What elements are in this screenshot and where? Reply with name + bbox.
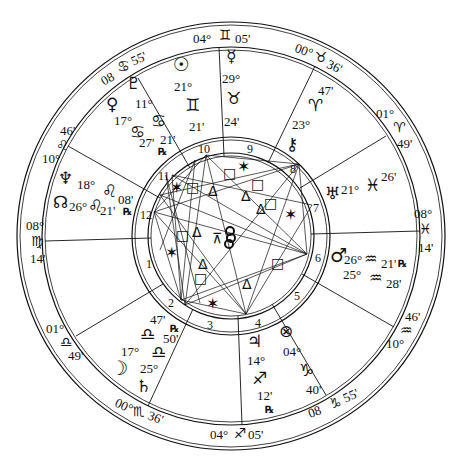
mars-minute: 21'	[381, 257, 396, 270]
house-number-10: 10	[198, 143, 210, 155]
saturn-sign-libra-icon: ♎	[151, 344, 166, 361]
sextile-icon: ✶	[206, 296, 219, 312]
taurus-icon: ♉	[315, 50, 328, 64]
moon-degree: 17°	[121, 345, 139, 358]
leo-icon: ♌	[56, 138, 69, 152]
cusp-2-minute: 49'	[68, 349, 83, 362]
jupiter-retrograde-icon: ℞	[265, 405, 274, 415]
part-of-fortune-icon: ⊗	[279, 323, 293, 340]
sun-degree: 21°	[174, 80, 192, 93]
jupiter-minute: 12'	[257, 389, 272, 402]
south-node-degree: 25°	[343, 268, 361, 281]
house-number-8: 8	[290, 163, 296, 175]
fortune-minute: 40'	[306, 383, 321, 396]
pluto-sign-cancer-icon: ♋	[151, 113, 166, 130]
house-number-9: 9	[247, 143, 253, 155]
neptune-degree: 18°	[77, 178, 95, 191]
neptune-sign-leo-icon: ♌	[102, 183, 117, 200]
north-node-minute: 21'	[100, 204, 115, 217]
moon-minute: 47'	[150, 313, 165, 326]
sextile-icon: ✶	[165, 245, 178, 261]
mars-degree: 26°	[344, 253, 362, 266]
neptune-minute: 08'	[118, 193, 133, 206]
mercury-degree: 29°	[222, 72, 240, 85]
trine-icon: Δ	[192, 225, 202, 239]
mars-retrograde-icon: ℞	[398, 259, 407, 269]
cusp-4-degree: 04°	[210, 428, 228, 441]
uranus-minute: 26'	[381, 170, 396, 183]
saturn-minute: 50'	[163, 332, 178, 345]
house-number-6: 6	[315, 252, 321, 264]
chiron-sign-aries-icon: ♈	[308, 97, 323, 114]
saturn-degree: 25°	[140, 362, 158, 375]
square-icon: □	[271, 256, 284, 270]
south-node-sign-aquarius-icon: ♒	[369, 271, 382, 286]
sun-icon: ☉	[173, 55, 190, 74]
neptune-icon: ♆	[58, 170, 73, 187]
pluto-minute: 21'	[160, 133, 175, 146]
cusp-1-minute: 14'	[30, 252, 45, 265]
house-number-12: 12	[140, 209, 152, 221]
house-number-4: 4	[255, 317, 261, 329]
jupiter-degree: 14°	[247, 354, 265, 367]
uranus-icon: ♅	[325, 185, 340, 202]
libra-icon: ♎	[60, 335, 73, 349]
trine-icon: Δ	[241, 189, 251, 203]
mercury-minute: 24'	[224, 115, 239, 128]
cusp-7-degree: 08°	[414, 207, 432, 220]
chiron-icon: ⚷	[286, 136, 298, 153]
sun-sign-gemini-icon: ♊	[185, 97, 200, 114]
pluto-icon: ♇	[126, 75, 141, 92]
house-number-1: 1	[146, 258, 152, 270]
house-number-2: 2	[168, 297, 174, 309]
cusp-10-degree: 04°	[193, 32, 211, 45]
cusp-4-minute: 05'	[248, 428, 263, 441]
square-icon: □	[223, 166, 236, 180]
cusp-8-degree: 01°	[376, 107, 394, 120]
house-number-3: 3	[207, 319, 213, 331]
central-stellium	[225, 227, 235, 248]
trine-icon: Δ	[198, 257, 208, 271]
venus-icon: ♀	[106, 96, 118, 113]
cusp-8-minute: 49'	[397, 137, 412, 150]
jupiter-icon: ♃	[247, 333, 262, 350]
jupiter-sign-sagittarius-icon: ♐	[252, 370, 267, 387]
fortune-degree: 04°	[283, 345, 301, 358]
uranus-sign-pisces-icon: ♓	[365, 177, 380, 194]
fortune-sign-capricorn-icon: ♑	[299, 362, 314, 379]
uranus-degree: 21°	[341, 183, 359, 196]
sextile-icon: ✶	[284, 207, 297, 223]
sextile-icon: ✶	[170, 180, 183, 196]
north-node-degree: 26°	[69, 200, 87, 213]
chiron-degree: 23°	[292, 118, 310, 131]
pluto-degree: 11°	[135, 97, 153, 110]
cusp-6-degree: 10°	[386, 337, 404, 350]
house-number-11: 11	[158, 170, 170, 182]
house-number-7: 7	[313, 202, 319, 214]
sextile-icon: ✶	[237, 159, 250, 175]
trine-icon: Δ	[242, 277, 252, 291]
venus-minute: 27'	[139, 136, 154, 149]
aquarius-icon: ♒	[400, 323, 413, 337]
cancer-icon: ♋	[117, 59, 130, 73]
mars-sign-aquarius-icon: ♒	[364, 252, 377, 267]
square-icon: □	[264, 196, 277, 210]
neptune-retrograde-icon: ℞	[123, 207, 132, 217]
capricorn-icon: ♑	[329, 396, 342, 410]
aries-icon: ♈	[393, 120, 406, 134]
south-node-minute: 28'	[386, 277, 401, 290]
moon-sign-libra-icon: ♎	[140, 326, 155, 343]
trine-icon: Δ	[208, 184, 218, 198]
sagittarius-icon: ♐	[234, 426, 247, 440]
virgo-icon: ♍	[31, 234, 44, 248]
cusp-10-minute: 05'	[235, 32, 250, 45]
pluto-retrograde-icon: ℞	[158, 147, 167, 157]
scorpio-icon: ♏	[133, 405, 145, 418]
cusp-12-degree: 10°	[42, 152, 60, 165]
gemini-icon: ♊	[219, 28, 232, 42]
north-node-icon: ☊	[53, 194, 68, 211]
quincunx-icon: ⊼	[212, 231, 222, 245]
square-icon: □	[176, 228, 189, 242]
square-icon: □	[186, 180, 199, 194]
pisces-icon: ♓	[419, 222, 432, 236]
